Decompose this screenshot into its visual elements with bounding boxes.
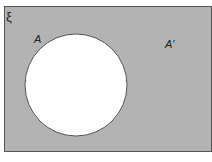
complement-label: A' xyxy=(165,39,174,50)
set-a-circle xyxy=(25,34,127,136)
universal-set-label: ξ xyxy=(6,10,12,23)
set-a-label: A xyxy=(34,34,41,45)
venn-diagram xyxy=(0,0,212,162)
